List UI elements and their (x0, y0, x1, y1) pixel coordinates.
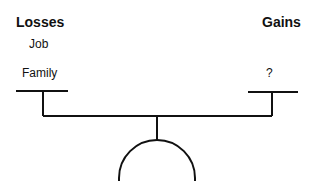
fulcrum-arc (119, 140, 195, 181)
scale-drawing (0, 0, 317, 191)
